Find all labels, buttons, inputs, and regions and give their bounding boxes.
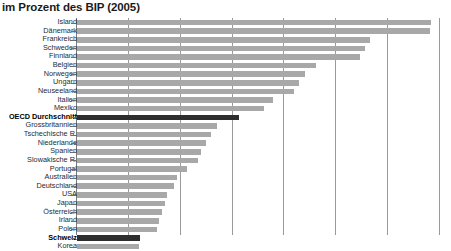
axis-tick <box>71 74 76 75</box>
bar <box>77 218 159 224</box>
bar <box>77 209 162 215</box>
bar <box>77 123 217 129</box>
bar <box>77 80 299 86</box>
axis-tick <box>71 109 76 110</box>
axis-tick <box>71 40 76 41</box>
bar <box>77 149 201 155</box>
bar <box>77 97 273 103</box>
axis-tick <box>71 212 76 213</box>
bar <box>77 71 305 77</box>
bar <box>77 106 264 112</box>
axis-tick <box>71 229 76 230</box>
axis-tick <box>71 160 76 161</box>
axis-tick <box>71 152 76 153</box>
bar-rows: IslandDänemarkFrankreichSchwedenFinnland… <box>0 0 451 235</box>
axis-tick <box>71 100 76 101</box>
bar <box>77 235 140 241</box>
bar <box>77 54 360 60</box>
axis-tick <box>71 221 76 222</box>
axis-tick <box>71 169 76 170</box>
axis-tick <box>71 23 76 24</box>
bar <box>77 63 316 69</box>
bar <box>77 115 239 121</box>
bar <box>77 166 187 172</box>
axis-tick <box>71 48 76 49</box>
axis-tick <box>71 31 76 32</box>
bar <box>77 201 165 207</box>
bar <box>77 20 431 26</box>
axis-tick <box>71 135 76 136</box>
bar <box>77 89 294 95</box>
bar <box>77 132 211 138</box>
bar <box>77 227 157 233</box>
axis-tick <box>71 117 76 118</box>
axis-tick <box>71 204 76 205</box>
axis-tick <box>71 247 76 248</box>
table-row: Korea <box>0 243 451 251</box>
axis-tick <box>71 143 76 144</box>
bar <box>77 183 174 189</box>
axis-tick <box>71 57 76 58</box>
bar <box>77 37 370 43</box>
bar <box>77 28 430 34</box>
bar <box>77 192 167 198</box>
axis-tick <box>71 66 76 67</box>
axis-tick <box>71 178 76 179</box>
chart-root: im Prozent des BIP (2005) IslandDänemark… <box>0 0 451 235</box>
bar <box>77 158 198 164</box>
bar <box>77 244 139 250</box>
axis-tick <box>71 186 76 187</box>
axis-tick <box>71 238 76 239</box>
axis-tick <box>71 195 76 196</box>
bar <box>77 140 206 146</box>
axis-tick <box>71 83 76 84</box>
bar <box>77 46 365 52</box>
axis-tick <box>71 91 76 92</box>
axis-tick <box>71 126 76 127</box>
bar <box>77 175 177 181</box>
